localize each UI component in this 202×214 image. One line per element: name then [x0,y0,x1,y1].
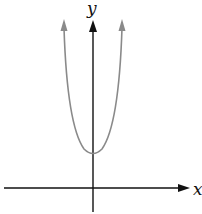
y-axis-label: y [86,0,97,18]
x-axis-arrow-icon [178,184,190,192]
y-axis-arrow-icon [89,20,97,32]
curve-left-arrow-icon [61,19,68,31]
curve-right-arrow-icon [119,19,126,31]
graph: x y [0,0,202,214]
x-axis-label: x [193,179,202,199]
